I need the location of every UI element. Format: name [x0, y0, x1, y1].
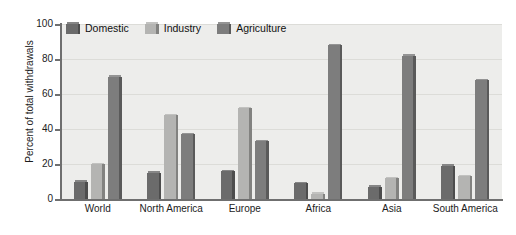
bar-face: [328, 45, 340, 199]
bar-face: [164, 115, 176, 199]
bar-top: [109, 75, 121, 77]
x-tick-label: Asia: [355, 203, 429, 214]
bar-top: [386, 177, 398, 179]
bar-domestic-asia: [368, 187, 382, 199]
bar-face: [311, 194, 323, 199]
bar-face: [221, 171, 233, 199]
bar-face: [74, 182, 86, 200]
bar-side: [193, 134, 196, 199]
bar-top: [75, 180, 87, 182]
bar-side: [266, 141, 269, 199]
bar-group: [135, 24, 209, 199]
bar-domestic-south-america: [441, 166, 455, 199]
bar-domestic-europe: [221, 171, 235, 199]
bar-agriculture-africa: [328, 45, 342, 199]
bar-group: [61, 24, 135, 199]
bar-top: [476, 79, 488, 81]
bar-top: [442, 164, 454, 166]
bar-top: [165, 114, 177, 116]
bar-top: [329, 44, 341, 46]
bar-side: [396, 178, 399, 199]
bar-side: [487, 80, 490, 199]
bar-face: [402, 56, 414, 200]
bar-domestic-world: [74, 182, 88, 200]
legend-label: Industry: [164, 22, 201, 34]
x-axis-line: [60, 199, 503, 201]
legend-label: Domestic: [85, 22, 129, 34]
bar-face: [238, 108, 250, 199]
bar-top: [312, 192, 324, 194]
bar-top: [92, 163, 104, 165]
bar-face: [368, 187, 380, 199]
bar-face: [294, 183, 306, 199]
y-axis-title: Percent of total withdrawals: [24, 17, 35, 187]
legend-swatch-icon: [66, 22, 80, 34]
x-tick-label: North America: [135, 203, 209, 214]
bar-group: [355, 24, 429, 199]
bar-face: [91, 164, 103, 199]
bar-domestic-africa: [294, 183, 308, 199]
bar-industry-asia: [385, 178, 399, 199]
chart-legend: DomesticIndustryAgriculture: [66, 22, 302, 34]
bar-industry-europe: [238, 108, 252, 199]
bar-group: [282, 24, 356, 199]
bar-side: [413, 56, 416, 200]
bar-agriculture-europe: [255, 141, 269, 199]
bar-side: [340, 45, 343, 199]
legend-item-agriculture[interactable]: Agriculture: [217, 22, 286, 34]
bar-industry-north-america: [164, 115, 178, 199]
bar-face: [181, 134, 193, 199]
legend-item-industry[interactable]: Industry: [145, 22, 201, 34]
bar-side: [232, 171, 235, 199]
bar-domestic-north-america: [147, 173, 161, 199]
bar-top: [369, 185, 381, 187]
bar-top: [182, 133, 194, 135]
bar-side: [119, 77, 122, 200]
bar-side: [102, 164, 105, 199]
x-tick-label: World: [61, 203, 135, 214]
bar-side: [453, 166, 456, 199]
bar-agriculture-asia: [402, 56, 416, 200]
bar-agriculture-world: [108, 77, 122, 200]
bar-top: [256, 140, 268, 142]
bar-face: [458, 176, 470, 199]
bar-side: [470, 176, 473, 199]
legend-item-domestic[interactable]: Domestic: [66, 22, 129, 34]
bar-groups: [61, 24, 502, 199]
bar-side: [249, 108, 252, 199]
bar-side: [176, 115, 179, 199]
bar-group: [429, 24, 503, 199]
bar-face: [147, 173, 159, 199]
bar-face: [441, 166, 453, 199]
bar-face: [475, 80, 487, 199]
bar-industry-world: [91, 164, 105, 199]
bar-face: [255, 141, 267, 199]
bar-face: [385, 178, 397, 199]
legend-swatch-icon: [145, 22, 159, 34]
bar-top: [459, 175, 471, 177]
bar-side: [306, 183, 309, 199]
bar-top: [403, 54, 415, 56]
bar-agriculture-south-america: [475, 80, 489, 199]
bar-side: [159, 173, 162, 199]
x-tick-label: Africa: [282, 203, 356, 214]
x-tick-label: Europe: [208, 203, 282, 214]
bar-group: [208, 24, 282, 199]
legend-label: Agriculture: [236, 22, 286, 34]
bar-side: [85, 182, 88, 200]
bar-side: [323, 194, 326, 199]
bar-agriculture-north-america: [181, 134, 195, 199]
x-tick-label: South America: [429, 203, 503, 214]
bar-face: [108, 77, 120, 200]
legend-swatch-icon: [217, 22, 231, 34]
bar-top: [148, 171, 160, 173]
bar-top: [295, 182, 307, 184]
bar-top: [239, 107, 251, 109]
y-tick-label: 0: [8, 194, 53, 204]
bar-industry-south-america: [458, 176, 472, 199]
bar-industry-africa: [311, 194, 325, 199]
bar-top: [222, 170, 234, 172]
bar-side: [379, 187, 382, 199]
bar-chart: 020406080100 Percent of total withdrawal…: [0, 0, 516, 235]
